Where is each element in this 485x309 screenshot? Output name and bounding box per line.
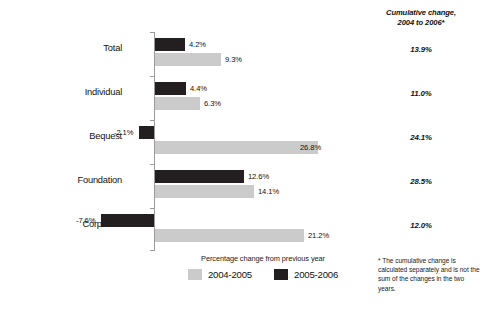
category-label-individual: Individual [10,87,122,97]
cumulative-value-corporate: 12.0% [360,221,482,230]
axis-tick [150,76,155,77]
bar-total-2005-2006 [155,38,185,51]
bar-value-total-2004-2005: 9.3% [225,55,242,64]
chart-row-bequest: Bequest -2.1% 26.8% 24.1% [0,120,485,164]
cumulative-column-header: Cumulative change, 2004 to 2006* [360,8,482,28]
bar-value-bequest-2005-2006: -2.1% [114,128,133,137]
legend-items: 2004-2005 2005-2006 [168,269,358,280]
bar-individual-2005-2006 [155,82,186,95]
cumulative-value-individual: 11.0% [360,89,482,98]
legend-label-2005-2006: 2005-2006 [294,269,338,280]
legend-title: Percentage change from previous year [168,254,358,263]
bar-individual-2004-2005 [155,97,200,110]
legend-item-2004-2005: 2004-2005 [188,269,252,280]
footnote-text: * The cumulative change is calculated se… [378,256,483,293]
chart-row-foundation: Foundation 12.6% 14.1% 28.5% [0,164,485,208]
bar-foundation-2004-2005 [155,185,254,198]
axis-tick [150,208,155,209]
bar-value-corporate-2005-2006: -7.6% [76,216,95,225]
bar-value-total-2005-2006: 4.2% [189,40,206,49]
cumulative-header-line-2: 2004 to 2006* [360,18,482,28]
cumulative-value-total: 13.9% [360,45,482,54]
cumulative-value-bequest: 24.1% [360,133,482,142]
legend-swatch-icon-2005-2006 [274,269,288,280]
axis-tick [150,120,155,121]
axis-tick [150,32,155,33]
chart-row-total: Total 4.2% 9.3% 13.9% [0,32,485,76]
axis-tick-bottom [150,250,155,251]
bar-value-bequest-2004-2005: 26.8% [300,143,321,152]
category-label-bequest: Bequest [10,131,122,141]
category-label-foundation: Foundation [10,175,122,185]
bar-bequest-2005-2006 [139,126,154,139]
bar-total-2004-2005 [155,53,221,66]
chart-row-corporate: Corporate -7.6% 21.2% 12.0% [0,208,485,252]
bar-corporate-2004-2005 [155,229,304,242]
legend-swatch-icon-2004-2005 [188,269,202,280]
plot-area: Total 4.2% 9.3% 13.9% Individual 4.4% 6.… [0,30,485,250]
bar-foundation-2005-2006 [155,170,244,183]
bar-value-individual-2004-2005: 6.3% [204,99,221,108]
category-label-total: Total [10,43,122,53]
bar-chart: Cumulative change, 2004 to 2006* Total 4… [0,0,485,309]
bar-value-foundation-2005-2006: 12.6% [248,172,269,181]
legend-label-2004-2005: 2004-2005 [208,269,252,280]
bar-corporate-2005-2006 [101,214,154,227]
bar-value-individual-2005-2006: 4.4% [190,84,207,93]
bar-value-corporate-2004-2005: 21.2% [308,231,329,240]
bar-bequest-2004-2005 [155,141,318,154]
cumulative-value-foundation: 28.5% [360,177,482,186]
chart-row-individual: Individual 4.4% 6.3% 11.0% [0,76,485,120]
bar-value-foundation-2004-2005: 14.1% [258,187,279,196]
chart-legend: Percentage change from previous year 200… [168,254,358,280]
axis-tick [150,164,155,165]
legend-item-2005-2006: 2005-2006 [274,269,338,280]
cumulative-header-line-1: Cumulative change, [360,8,482,18]
